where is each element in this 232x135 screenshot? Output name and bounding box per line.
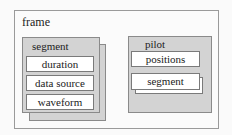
pilot-label: pilot (145, 38, 165, 50)
field-data-source: data source (26, 75, 94, 91)
field-waveform: waveform (26, 94, 94, 110)
segment-label: segment (32, 40, 69, 52)
field-positions: positions (131, 51, 200, 67)
field-pilot-segment: segment (131, 73, 200, 90)
frame-label: frame (22, 15, 50, 30)
field-duration: duration (26, 56, 94, 72)
